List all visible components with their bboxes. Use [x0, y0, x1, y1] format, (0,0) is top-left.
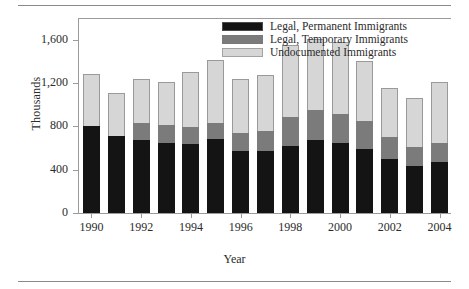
bar-stack: [182, 72, 199, 213]
bar-stack: [282, 45, 299, 213]
legend-item: Legal, Temporary Immigrants: [222, 33, 408, 46]
bar-stack: [232, 79, 249, 213]
bar-segment: [356, 149, 373, 213]
bar-segment: [207, 139, 224, 213]
bar-segment: [133, 140, 150, 213]
bar-segment: [158, 82, 175, 125]
y-axis-tick: 1,600: [0, 40, 78, 41]
y-axis-tick-label: 800: [50, 118, 68, 133]
x-axis-tick-mark: [241, 214, 242, 218]
bar-stack: [158, 82, 175, 213]
bar-segment: [232, 133, 249, 151]
bar-stack: [332, 42, 349, 213]
bar-segment: [108, 136, 125, 213]
top-rule: [18, 5, 451, 6]
bar-segment: [182, 127, 199, 144]
bar-stack: [356, 61, 373, 213]
bar-segment: [406, 147, 423, 166]
bar-segment: [282, 146, 299, 213]
y-axis-title: Thousands: [29, 44, 44, 164]
bar-segment: [83, 74, 100, 126]
y-axis-tick: 1,200: [0, 83, 78, 84]
y-axis-tick: 400: [0, 170, 78, 171]
legend-swatch: [222, 35, 263, 44]
bar-segment: [133, 123, 150, 140]
legend-label: Legal, Permanent Immigrants: [270, 20, 407, 33]
bar-segment: [207, 123, 224, 139]
bar-segment: [356, 121, 373, 149]
bar-segment: [257, 151, 274, 213]
bar-segment: [182, 144, 199, 213]
bar-segment: [381, 137, 398, 159]
bar-segment: [257, 131, 274, 151]
y-axis-tick: 800: [0, 126, 78, 127]
bar-segment: [133, 79, 150, 123]
bar-segment: [182, 72, 199, 127]
x-axis-tick-label: 2004: [410, 220, 469, 235]
bar-segment: [332, 114, 349, 143]
bar-segment: [431, 162, 448, 213]
y-axis-tick: 0: [0, 213, 78, 214]
legend-swatch: [222, 48, 263, 57]
legend-swatch: [222, 22, 263, 31]
chart-legend: Legal, Permanent ImmigrantsLegal, Tempor…: [222, 20, 408, 60]
x-axis-tick-mark: [91, 214, 92, 218]
bar-segment: [431, 82, 448, 143]
legend-label: Legal, Temporary Immigrants: [270, 33, 408, 46]
bar-segment: [307, 140, 324, 213]
y-axis-tick-label: 1,200: [41, 75, 68, 90]
bar-segment: [307, 110, 324, 140]
bar-segment: [108, 93, 125, 136]
legend-label: Undocumented Immigrants: [270, 46, 396, 59]
bar-segment: [232, 79, 249, 133]
x-axis-tick-mark: [440, 214, 441, 218]
x-axis-tick-mark: [340, 214, 341, 218]
bar-segment: [406, 98, 423, 147]
bar-stack: [207, 60, 224, 213]
bar-segment: [332, 143, 349, 213]
bar-stack: [381, 88, 398, 213]
x-axis-tick-mark: [141, 214, 142, 218]
y-axis-tick-label: 0: [62, 205, 68, 220]
figure-page: Thousands 04008001,2001,600 199019921994…: [0, 0, 469, 289]
legend-item: Legal, Permanent Immigrants: [222, 20, 408, 33]
bar-segment: [356, 61, 373, 121]
legend-item: Undocumented Immigrants: [222, 46, 408, 59]
bar-segment: [381, 88, 398, 137]
x-axis-tick-mark: [290, 214, 291, 218]
bar-stack: [257, 75, 274, 213]
bar-stack: [133, 79, 150, 213]
bar-stack: [406, 98, 423, 213]
bar-segment: [282, 117, 299, 146]
y-axis-tick-mark: [73, 213, 78, 214]
bar-segment: [257, 75, 274, 131]
bar-stack: [108, 93, 125, 213]
bar-segment: [232, 151, 249, 213]
bar-segment: [158, 125, 175, 142]
y-axis-tick-label: 1,600: [41, 32, 68, 47]
bottom-rule: [18, 281, 451, 282]
x-axis-line: [78, 213, 451, 214]
bar-stack: [431, 82, 448, 213]
bar-segment: [431, 143, 448, 162]
x-axis-title: Year: [0, 252, 469, 267]
bar-segment: [406, 166, 423, 213]
x-axis-tick-mark: [191, 214, 192, 218]
bar-stack: [307, 39, 324, 213]
bar-stack: [83, 74, 100, 213]
x-axis-tick-mark: [390, 214, 391, 218]
bar-segment: [381, 159, 398, 213]
bar-segment: [207, 60, 224, 123]
y-axis-tick-label: 400: [50, 162, 68, 177]
bar-segment: [158, 143, 175, 213]
bar-segment: [83, 126, 100, 213]
